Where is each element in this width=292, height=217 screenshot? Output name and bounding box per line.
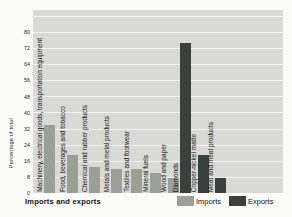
category-label-8: Copper-nickel matte [190,134,197,192]
chart-figure: Percentage of total 80726456484032241680… [0,0,292,217]
y-tick-label-32: 32 [14,126,30,132]
category-5: Mineral fuels [142,10,161,193]
category-1: Food, beverages and tobacco [59,10,78,193]
category-label-4: Textiles and footwear [123,131,130,192]
category-0: Machinery, electrical goods, transportat… [36,10,55,193]
category-4: Textiles and footwear [123,10,142,193]
y-tick-label-16: 16 [14,158,30,164]
category-9: Meat and meat products [207,10,226,193]
imports-bar-1 [67,155,78,193]
category-2: Chemical and rubber products [81,10,100,193]
y-tick-label-48: 48 [14,94,30,100]
category-label-9: Meat and meat products [207,122,214,192]
y-tick-label-64: 64 [14,61,30,67]
category-label-6: Wood and paper [160,144,167,192]
y-tick-label-24: 24 [14,142,30,148]
imports-bar-0 [44,125,55,193]
legend: Imports Exports [177,196,281,206]
category-label-5: Mineral fuels [142,155,149,192]
y-tick-label-8: 8 [14,174,30,180]
y-tick-label-72: 72 [14,45,30,51]
legend-exports-label: Exports [248,197,273,206]
chart-title: Imports and exports [25,197,101,206]
legend-imports-label: Imports [196,197,221,206]
category-3: Metals and metal products [103,10,122,193]
imports-bar-4 [131,169,142,193]
y-tick-label-56: 56 [14,77,30,83]
plot-area: Machinery, electrical goods, transportat… [33,10,283,193]
imports-bar-3 [111,169,122,193]
category-label-2: Chemical and rubber products [81,105,88,192]
y-tick-label-80: 80 [14,29,30,35]
y-tick-label-0: 0 [14,190,30,196]
legend-imports-swatch [177,196,194,206]
legend-exports-swatch [229,196,246,206]
category-label-3: Metals and metal products [103,116,110,192]
category-label-0: Machinery, electrical goods, transportat… [36,38,43,192]
category-label-7: Diamonds [172,163,179,192]
exports-bar-9 [215,178,226,193]
y-tick-label-40: 40 [14,110,30,116]
category-7: Diamonds [172,10,191,193]
category-label-1: Food, beverages and tobacco [59,106,66,192]
imports-bar-2 [89,167,100,193]
